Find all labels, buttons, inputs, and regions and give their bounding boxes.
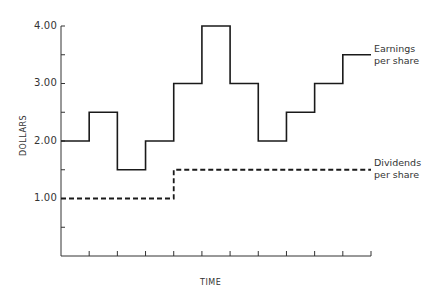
- x-axis-label: TIME: [200, 278, 221, 287]
- earnings-label-line2: per share: [374, 55, 419, 67]
- earnings-line: [61, 26, 371, 170]
- axes: [61, 26, 371, 256]
- dividends-series-label: Dividends per share: [374, 157, 421, 181]
- dividends-line: [61, 170, 371, 199]
- y-axis-label: DOLLARS: [19, 111, 28, 161]
- dividends-label-line1: Dividends: [374, 157, 421, 169]
- y-tick-label-3: 3.00: [17, 77, 57, 88]
- earnings-label-line1: Earnings: [374, 43, 419, 55]
- series-group: [61, 26, 371, 199]
- earnings-series-label: Earnings per share: [374, 43, 419, 67]
- y-tick-label-1: 1.00: [17, 192, 57, 203]
- chart-canvas: [0, 0, 436, 302]
- dividends-label-line2: per share: [374, 169, 421, 181]
- y-tick-label-4: 4.00: [17, 20, 57, 31]
